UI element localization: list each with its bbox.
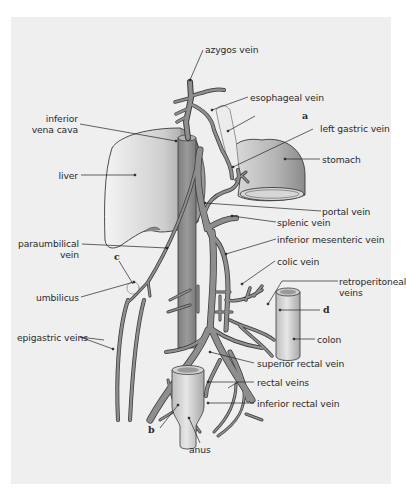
label-liver: liver [59, 170, 78, 181]
label-colon: colon [317, 334, 341, 345]
label-inferior-vena-cava-line1: inferior [46, 113, 78, 124]
rectum-organ [172, 366, 204, 450]
label-paraumbilical-vein-line1: paraumbilical [18, 238, 79, 249]
label-a: a [302, 110, 308, 121]
label-paraumbilical-vein-line2: vein [60, 249, 79, 260]
label-esophageal-vein: esophageal vein [250, 92, 324, 103]
label-epigastric-veins: epigastric veins [17, 332, 88, 343]
label-left-gastric-vein: left gastric vein [320, 123, 390, 134]
label-rectal-veins: rectal veins [257, 377, 309, 388]
label-umbilicus: umbilicus [36, 292, 79, 303]
inferior-vena-cava [178, 135, 196, 348]
label-inferior-mesenteric-vein: inferior mesenteric vein [277, 234, 384, 245]
label-superior-rectal-vein: superior rectal vein [257, 358, 344, 369]
label-colic-vein: colic vein [277, 256, 319, 267]
label-stomach: stomach [322, 154, 361, 165]
colon-organ [276, 288, 300, 361]
label-inferior-rectal-vein: inferior rectal vein [257, 398, 339, 409]
label-retroperitoneal-veins-line2: veins [339, 287, 363, 298]
label-retroperitoneal-veins-line1: retroperitoneal [339, 276, 406, 287]
label-splenic-vein: splenic vein [277, 217, 330, 228]
label-c: c [114, 251, 120, 262]
label-anus: anus [189, 444, 211, 455]
label-portal-vein: portal vein [322, 206, 370, 217]
label-b: b [148, 424, 155, 435]
label-d: d [323, 304, 330, 315]
label-azygos-vein: azygos vein [205, 44, 258, 55]
label-inferior-vena-cava-line2: vena cava [32, 124, 78, 135]
stomach-organ [216, 106, 305, 201]
